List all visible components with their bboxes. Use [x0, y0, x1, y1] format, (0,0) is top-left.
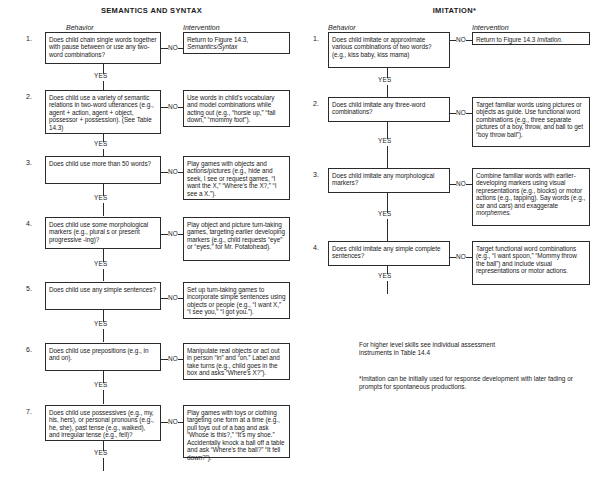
left-row-3-intervention-box: Play games with objects and actions/pict… — [183, 156, 290, 200]
left-row-5-intervention-box: Set up turn-taking games to incorporate … — [183, 282, 290, 319]
left-row-5-number: 5. — [26, 285, 32, 292]
right-row-1-number: 1. — [313, 35, 319, 42]
left-row-6-yes-label: YES — [94, 381, 107, 388]
right-row-1-intervention-box: Return to Figure 14.3 Imitation. — [472, 32, 590, 45]
left-row-3-yes-label: YES — [94, 194, 107, 201]
right-row-1-behavior-box: Does child imitate or approximate variou… — [328, 32, 450, 68]
right-row-3-intervention-box: Combine familiar words with earlier-deve… — [472, 168, 590, 226]
right-row-4-no-label: NO — [456, 253, 466, 260]
right-row-1-yes-label: YES — [378, 76, 391, 83]
left-row-5-behavior-box: Does child use any simple sentences? — [45, 282, 161, 310]
left-row-7-no-line-a — [161, 422, 168, 423]
left-row-5-yes-label: YES — [94, 320, 107, 327]
imitation-title: IMITATION* — [303, 6, 606, 15]
right-row-3-number: 3. — [313, 171, 319, 178]
left-row-5-no-label: NO — [168, 294, 178, 301]
right-row-4-number: 4. — [313, 244, 319, 251]
left-row-3-no-line-a — [161, 172, 168, 173]
left-row-2-behavior-text: Does child use a variety of semantic rel… — [49, 94, 154, 131]
right-row-2-no-label: NO — [456, 109, 466, 116]
higher-level-skills-note: For higher level skills see individual a… — [359, 341, 519, 357]
right-row-2-number: 2. — [313, 100, 319, 107]
left-row-6-no-label: NO — [168, 355, 178, 362]
left-row-2-yes-label: YES — [94, 140, 107, 147]
right-row-2-behavior-text: Does child imitate any three-word combin… — [332, 101, 425, 116]
left-row-4-intervention-box: Play object and picture turn-taking game… — [183, 217, 290, 261]
left-row-1-behavior-text: Does child chain single words together w… — [49, 36, 157, 58]
left-row-7-no-label: NO — [168, 418, 178, 425]
left-row-2-no-label: NO — [168, 103, 178, 110]
right-row-3-yes-line-b — [387, 219, 388, 241]
right-row-2-behavior-box: Does child imitate any three-word combin… — [328, 97, 450, 122]
right-row-1-intervention-italic: Imitation. — [537, 36, 562, 43]
left-row-1-no-label: NO — [168, 44, 178, 51]
left-row-3-number: 3. — [26, 159, 32, 166]
right-row-2-yes-label: YES — [378, 137, 391, 144]
left-row-6-yes-line-b — [103, 390, 104, 404]
left-row-6-behavior-text: Does child use prepositions (e.g., in an… — [49, 347, 148, 362]
left-row-1-number: 1. — [26, 35, 32, 42]
right-row-2-intervention-box: Target familiar words using pictures or … — [472, 97, 590, 147]
right-row-3-behavior-box: Does child imitate any morphological mar… — [328, 168, 450, 193]
right-row-4-behavior-text: Does child imitate any simple complete s… — [332, 245, 441, 260]
left-row-1-intervention-box: Return to Figure 14.3, Semantics/Syntax — [183, 32, 290, 54]
left-row-2-no-line-a — [161, 107, 168, 108]
left-row-1-yes-label: YES — [94, 72, 107, 79]
right-row-3-yes-label: YES — [378, 210, 391, 217]
left-row-5-no-line-a — [161, 298, 168, 299]
left-row-6-intervention-box: Manipulate real objects or act out in pe… — [183, 343, 290, 380]
left-row-7-intervention-text: Play games with toys or clothing targeti… — [187, 409, 285, 462]
right-intervention-header: Intervention — [472, 24, 509, 31]
left-row-7-behavior-text: Does child use possessives (e.g., my, hi… — [49, 409, 154, 439]
left-row-3-behavior-box: Does child use more than 50 words? — [45, 156, 161, 184]
right-row-2-yes-line-b — [387, 146, 388, 168]
right-row-1-yes-line-b — [387, 85, 388, 97]
right-row-3-behavior-text: Does child imitate any morphological mar… — [332, 172, 434, 187]
right-row-1-no-label: NO — [456, 36, 466, 43]
left-row-4-no-line-a — [161, 234, 168, 235]
left-row-6-no-line-a — [161, 359, 168, 360]
left-row-3-no-label: NO — [168, 168, 178, 175]
right-row-4-yes-line-b — [387, 281, 388, 294]
right-row-4-intervention-box: Target functional word combinations (e.g… — [472, 241, 590, 285]
left-row-7-intervention-box: Play games with toys or clothing targeti… — [183, 405, 290, 458]
left-row-7-yes-line-b — [103, 458, 104, 471]
left-row-3-behavior-text: Does child use more than 50 words? — [49, 160, 151, 167]
right-row-1-behavior-text: Does child imitate or approximate variou… — [332, 36, 432, 58]
left-row-4-behavior-text: Does child use some morphological marker… — [49, 221, 148, 243]
flowchart-page: SEMANTICS AND SYNTAX Behavior Interventi… — [0, 0, 606, 492]
right-row-1-intervention-text: Return to Figure 14.3 — [476, 36, 537, 43]
left-row-4-number: 4. — [26, 220, 32, 227]
left-row-7-number: 7. — [26, 408, 32, 415]
left-row-5-yes-line-b — [103, 329, 104, 342]
left-behavior-header: Behavior — [66, 24, 94, 31]
left-row-2-behavior-box: Does child use a variety of semantic rel… — [45, 90, 161, 134]
left-row-1-no-line-a — [161, 48, 168, 49]
semantics-syntax-title: SEMANTICS AND SYNTAX — [0, 6, 303, 15]
left-row-5-intervention-text: Set up turn-taking games to incorporate … — [187, 286, 285, 316]
left-row-7-yes-label: YES — [94, 449, 107, 456]
left-row-2-intervention-text: Use words in child's vocabulary and mode… — [187, 94, 275, 124]
left-row-6-behavior-box: Does child use prepositions (e.g., in an… — [45, 343, 161, 371]
left-row-5-behavior-text: Does child use any simple sentences? — [49, 286, 156, 293]
left-row-1-intervention-italic: Semantics/Syntax — [187, 43, 237, 50]
left-row-4-intervention-text: Play object and picture turn-taking game… — [187, 221, 285, 251]
left-row-6-number: 6. — [26, 346, 32, 353]
left-row-4-yes-line-b — [103, 269, 104, 281]
left-row-2-number: 2. — [26, 93, 32, 100]
left-row-6-intervention-text: Manipulate real objects or act out in pe… — [187, 347, 280, 377]
right-behavior-header: Behavior — [328, 24, 356, 31]
left-row-4-yes-label: YES — [94, 260, 107, 267]
right-row-4-yes-label: YES — [378, 272, 391, 279]
left-row-4-behavior-box: Does child use some morphological marker… — [45, 217, 161, 249]
right-row-2-intervention-text: Target familiar words using pictures or … — [476, 101, 583, 138]
left-row-4-no-label: NO — [168, 230, 178, 237]
left-intervention-header: Intervention — [183, 24, 220, 31]
imitation-footnote: *Imitation can be initially used for res… — [359, 375, 591, 391]
left-row-2-intervention-box: Use words in child's vocabulary and mode… — [183, 90, 290, 127]
right-row-4-intervention-text: Target functional word combinations (e.g… — [476, 245, 577, 275]
left-row-3-yes-line-b — [103, 203, 104, 216]
left-row-1-intervention-text: Return to Figure 14.3, — [187, 36, 248, 43]
left-row-1-behavior-box: Does child chain single words together w… — [45, 32, 161, 64]
right-row-3-intervention-italic: morphemes. — [476, 209, 511, 216]
